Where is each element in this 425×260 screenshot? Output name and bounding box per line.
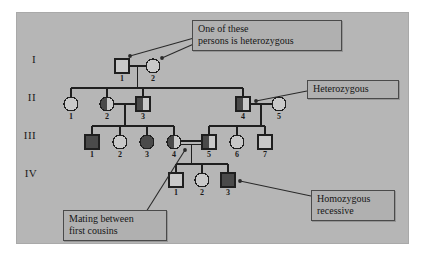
generation-label-i: I <box>22 53 46 65</box>
id-number-iii-3: 3 <box>139 150 155 159</box>
individual-iii-5[interactable] <box>202 135 216 149</box>
id-number-ii-4: 4 <box>235 112 251 121</box>
id-number-ii-5: 5 <box>271 112 287 121</box>
id-number-iii-2: 2 <box>112 150 128 159</box>
individual-ii-4[interactable] <box>236 97 250 111</box>
individual-iv-2[interactable] <box>195 173 209 187</box>
id-number-i-2: 2 <box>145 74 161 83</box>
generation-label-ii: II <box>20 91 44 103</box>
id-number-ii-3: 3 <box>135 112 151 121</box>
id-number-iii-7: 7 <box>257 150 273 159</box>
id-number-ii-1: 1 <box>63 112 79 121</box>
individual-iii-4[interactable] <box>167 135 181 149</box>
individual-iii-3[interactable] <box>140 135 154 149</box>
callout-homozygous-recessive-leader-dot-1 <box>238 179 242 183</box>
id-number-iii-1: 1 <box>84 150 100 159</box>
callout-heterozygous-pair-leader-dot-1 <box>128 54 132 58</box>
callout-heterozygous-leader-dot-1 <box>254 99 258 103</box>
generation-label-iii: III <box>18 129 42 141</box>
id-number-iii-4: 4 <box>166 150 182 159</box>
individual-iii-7[interactable] <box>258 135 272 149</box>
individual-i-2[interactable] <box>146 59 160 73</box>
pedigree-figure: IIIIIIIV 12123451234567123 One of these … <box>0 0 425 260</box>
callout-homozygous-recessive[interactable]: Homozygous recessive <box>311 190 395 221</box>
id-number-ii-2: 2 <box>99 112 115 121</box>
id-number-iv-2: 2 <box>194 188 210 197</box>
id-number-i-1: 1 <box>114 74 130 83</box>
generation-label-iv: IV <box>19 167 43 179</box>
callout-heterozygous[interactable]: Heterozygous <box>307 80 399 99</box>
callout-first-cousins-leader-dot-1 <box>183 148 187 152</box>
individual-ii-3[interactable] <box>136 97 150 111</box>
individual-iii-2[interactable] <box>113 135 127 149</box>
callout-heterozygous-pair-leader-1 <box>130 38 194 56</box>
individual-ii-5[interactable] <box>272 97 286 111</box>
individual-iv-1[interactable] <box>169 173 183 187</box>
callout-heterozygous-pair-leader-dot-2 <box>160 56 164 60</box>
individual-iii-6[interactable] <box>230 135 244 149</box>
individual-iii-1[interactable] <box>85 135 99 149</box>
id-number-iv-1: 1 <box>168 188 184 197</box>
individual-i-1[interactable] <box>115 59 129 73</box>
individual-ii-1[interactable] <box>64 97 78 111</box>
id-number-iii-5: 5 <box>201 150 217 159</box>
individual-iv-3[interactable] <box>221 173 235 187</box>
individual-ii-2[interactable] <box>100 97 114 111</box>
callout-first-cousins[interactable]: Mating between first cousins <box>63 210 167 241</box>
callout-homozygous-recessive-leader-1 <box>240 181 311 196</box>
callout-heterozygous-pair[interactable]: One of these persons is heterozygous <box>192 20 342 51</box>
id-number-iv-3: 3 <box>220 188 236 197</box>
id-number-iii-6: 6 <box>229 150 245 159</box>
